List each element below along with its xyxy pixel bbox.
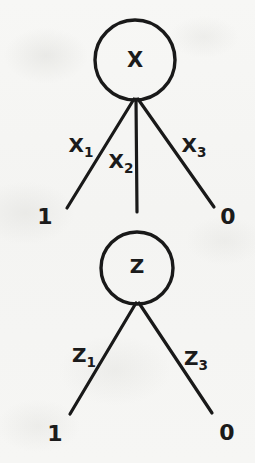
edge-z3-label: Z3 (184, 346, 208, 373)
edge-x2-label-subscript: 2 (124, 160, 133, 176)
decision-tree-graphic: X Z X1 X2 X3 Z1 Z3 1 0 (0, 0, 255, 463)
edge-z3-label-base: Z (184, 346, 199, 370)
node-z-label: Z (130, 254, 145, 278)
edge-x1-label-base: X (69, 133, 85, 157)
edge-x1-label-subscript: 1 (84, 144, 93, 160)
terminal-x-left-label: 1 (37, 204, 52, 229)
edge-x2-label-base: X (109, 149, 125, 173)
node-x-label: X (127, 48, 143, 72)
edge-x3-label-subscript: 3 (197, 144, 206, 160)
edge-z1-label-subscript: 1 (87, 354, 96, 370)
terminal-z-right-label: 0 (219, 420, 234, 445)
edge-x3-label-base: X (182, 133, 198, 157)
edge-x2-label: X2 (109, 149, 134, 176)
edge-z1-label-base: Z (72, 343, 87, 367)
edge-z3-label-subscript: 3 (199, 357, 208, 373)
terminal-z-left-label: 1 (47, 421, 62, 446)
edge-x3-label: X3 (182, 133, 207, 160)
diagram-canvas: X Z X1 X2 X3 Z1 Z3 1 0 (0, 0, 255, 463)
edge-z1-label: Z1 (72, 343, 96, 370)
edge-x1-label: X1 (69, 133, 94, 160)
terminal-label-group: 1 0 1 0 (37, 204, 235, 446)
terminal-x-right-label: 0 (220, 204, 235, 229)
edge-x2-line (136, 99, 137, 212)
